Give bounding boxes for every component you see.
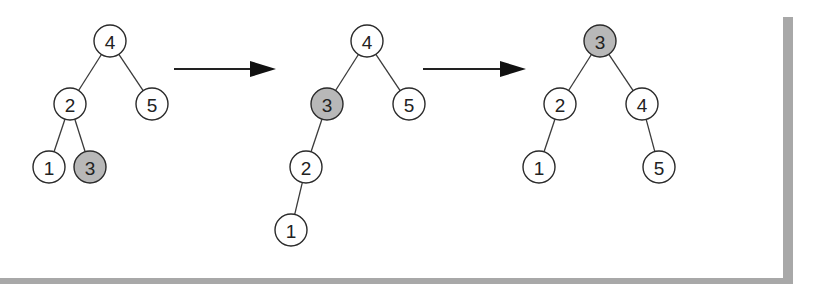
node-label: 5 bbox=[404, 95, 415, 116]
edge-2-1 bbox=[295, 183, 303, 215]
tree-node-3: 3 bbox=[311, 88, 343, 120]
arrow-2-icon bbox=[423, 61, 526, 77]
node-label: 1 bbox=[534, 158, 545, 179]
nodes-layer: 425134352132415 bbox=[33, 25, 675, 246]
edge-4-5 bbox=[119, 54, 143, 90]
tree-node-2: 2 bbox=[54, 88, 86, 120]
tree-node-5: 5 bbox=[136, 88, 168, 120]
node-label: 3 bbox=[595, 32, 606, 53]
edge-4-2 bbox=[79, 55, 102, 91]
arrows-layer bbox=[174, 61, 526, 77]
node-label: 4 bbox=[362, 32, 373, 53]
node-label: 5 bbox=[654, 158, 665, 179]
tree-node-4: 4 bbox=[626, 88, 658, 120]
arrow-1-icon bbox=[174, 61, 276, 77]
tree-3: 32415 bbox=[523, 25, 675, 183]
edge-2-1 bbox=[544, 119, 555, 152]
node-label: 3 bbox=[322, 95, 333, 116]
node-label: 2 bbox=[301, 158, 312, 179]
tree-node-1: 1 bbox=[523, 151, 555, 183]
edge-4-5 bbox=[376, 54, 400, 90]
node-label: 1 bbox=[286, 221, 297, 242]
tree-node-4: 4 bbox=[94, 25, 126, 57]
tree-node-5: 5 bbox=[393, 88, 425, 120]
frame-shadow-right bbox=[783, 17, 793, 284]
edge-2-1 bbox=[54, 119, 65, 152]
edges-layer bbox=[54, 54, 655, 214]
tree-node-2: 2 bbox=[544, 88, 576, 120]
node-label: 3 bbox=[85, 158, 96, 179]
edge-3-2 bbox=[569, 55, 592, 91]
tree-node-4: 4 bbox=[351, 25, 383, 57]
node-label: 2 bbox=[65, 95, 76, 116]
edge-4-3 bbox=[336, 55, 359, 91]
tree-node-1: 1 bbox=[275, 214, 307, 246]
node-label: 2 bbox=[555, 95, 566, 116]
rotation-diagram: 425134352132415 bbox=[0, 0, 814, 284]
tree-node-1: 1 bbox=[33, 151, 65, 183]
edge-3-4 bbox=[609, 54, 633, 90]
node-label: 1 bbox=[44, 158, 55, 179]
node-label: 5 bbox=[147, 95, 158, 116]
tree-1: 42513 bbox=[33, 25, 168, 183]
frame-shadow-bottom bbox=[0, 278, 793, 284]
tree-node-2: 2 bbox=[290, 151, 322, 183]
edge-2-3 bbox=[75, 119, 85, 152]
edge-4-5 bbox=[646, 119, 655, 151]
tree-node-5: 5 bbox=[643, 151, 675, 183]
edge-3-2 bbox=[311, 119, 322, 152]
node-label: 4 bbox=[105, 32, 116, 53]
tree-2: 43521 bbox=[275, 25, 425, 246]
tree-node-3: 3 bbox=[584, 25, 616, 57]
tree-node-3: 3 bbox=[74, 151, 106, 183]
node-label: 4 bbox=[637, 95, 648, 116]
